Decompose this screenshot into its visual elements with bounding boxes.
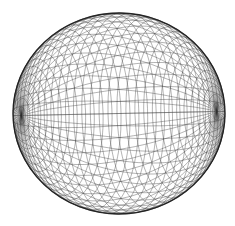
mesh-line [17, 112, 217, 176]
mesh-line [13, 112, 216, 128]
mesh-line [21, 52, 221, 116]
wireframe-sphere-svg [0, 0, 235, 226]
mesh-line [13, 112, 217, 116]
mesh-line [21, 99, 224, 115]
figure-canvas [0, 0, 235, 226]
sphere-mesh [13, 13, 225, 214]
